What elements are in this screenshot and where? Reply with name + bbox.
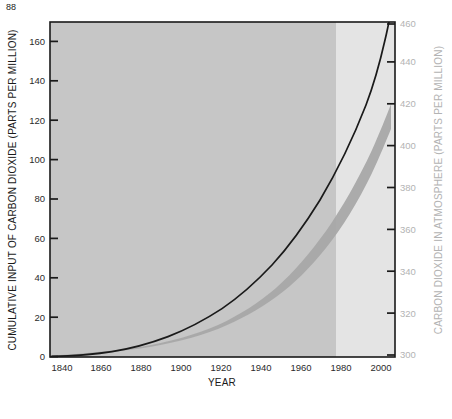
left-tick-60: 60: [34, 233, 45, 244]
x-tick-1920: 1920: [210, 362, 231, 373]
left-tick-140: 140: [29, 75, 45, 86]
right-tick-320: 320: [400, 308, 416, 319]
right-tick-440: 440: [400, 56, 416, 67]
projection-region-background: [336, 22, 395, 357]
x-tick-1980: 1980: [330, 362, 351, 373]
right-tick-400: 400: [400, 140, 416, 151]
left-tick-40: 40: [34, 272, 45, 283]
left-tick-160: 160: [29, 36, 45, 47]
right-tick-300: 300: [400, 349, 416, 360]
observed-region-background: [50, 22, 336, 357]
x-tick-1940: 1940: [250, 362, 271, 373]
x-axis-title: YEAR: [208, 377, 236, 388]
x-tick-1840: 1840: [51, 362, 72, 373]
left-tick-120: 120: [29, 115, 45, 126]
co2-chart: 0 20 40 60 80 100 120 140 160 300 320 3: [0, 0, 452, 419]
left-tick-20: 20: [34, 312, 45, 323]
right-tick-380: 380: [400, 182, 416, 193]
figure-container: 88: [0, 0, 452, 419]
x-tick-1860: 1860: [90, 362, 111, 373]
x-tick-1900: 1900: [170, 362, 191, 373]
right-tick-340: 340: [400, 266, 416, 277]
bottom-axis-tick-labels: 1840 1860 1880 1900 1920 1940 1960 1980 …: [51, 362, 391, 373]
x-tick-1960: 1960: [290, 362, 311, 373]
right-tick-460: 460: [400, 18, 416, 29]
x-tick-1880: 1880: [130, 362, 151, 373]
left-axis-title: CUMULATIVE INPUT OF CARBON DIOXIDE (PART…: [7, 29, 18, 350]
right-tick-420: 420: [400, 98, 416, 109]
right-axis-tick-labels: 300 320 340 360 380 400 420 440 460: [400, 18, 416, 360]
left-tick-100: 100: [29, 154, 45, 165]
left-axis-tick-labels: 0 20 40 60 80 100 120 140 160: [29, 36, 45, 362]
right-axis-title: CARBON DIOXIDE IN ATMOSPHERE (PARTS PER …: [433, 46, 444, 335]
right-tick-360: 360: [400, 224, 416, 235]
left-tick-0: 0: [40, 351, 45, 362]
left-tick-80: 80: [34, 193, 45, 204]
x-tick-2000: 2000: [370, 362, 391, 373]
